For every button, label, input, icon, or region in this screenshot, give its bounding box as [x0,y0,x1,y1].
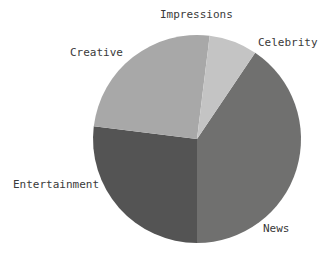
slice-label-celebrity: Celebrity [258,36,318,49]
chart-title: Impressions [160,8,233,21]
slice-label-creative: Creative [70,46,123,59]
pie-slice-news [93,126,197,243]
pie-slice-group [93,35,301,243]
slice-label-entertainment: Entertainment [13,178,99,191]
pie-chart-figure: Impressions Celebrity Creative Entertain… [0,0,333,257]
slice-label-news: News [263,222,290,235]
